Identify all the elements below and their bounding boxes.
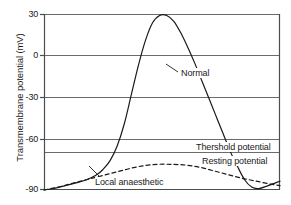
y-tick-label-30: 30 <box>8 9 38 19</box>
y-tick-label-0: 0 <box>8 50 38 60</box>
chart-plot-area <box>0 0 291 205</box>
y-tick-label-minus90: -90 <box>8 184 38 194</box>
y-tick-label-minus30: -30 <box>8 92 38 102</box>
annotation-threshold-potential: Thershold potential <box>196 142 271 152</box>
annotation-local-anaesthetic: Local anaesthetic <box>95 177 163 187</box>
y-tick-label-minus60: -60 <box>8 134 38 144</box>
y-axis-ticks <box>40 15 44 190</box>
annotation-normal: Normal <box>181 68 209 78</box>
action-potential-chart: Transmembrane potential (mV) 30 0 -30 -6… <box>0 0 291 205</box>
annotation-resting-potential: Resting potential <box>202 156 267 166</box>
